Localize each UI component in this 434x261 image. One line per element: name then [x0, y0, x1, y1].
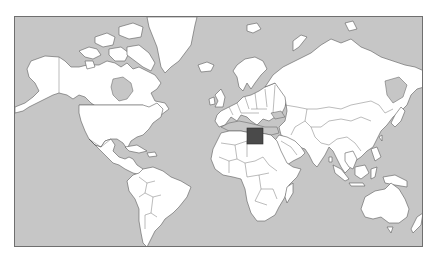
world-map: Egypt — [14, 16, 423, 247]
new-guinea — [383, 175, 407, 187]
severnaya-zemlya — [345, 21, 357, 31]
world-map-svg — [15, 17, 423, 247]
arctic-islands-4 — [119, 23, 143, 39]
sri-lanka — [329, 157, 332, 162]
taiwan — [379, 135, 382, 141]
ireland — [209, 97, 215, 105]
iceland — [198, 62, 214, 72]
philippines — [371, 147, 381, 161]
tasmania — [387, 227, 393, 233]
australia — [361, 183, 409, 223]
usa — [79, 103, 163, 149]
sulawesi — [371, 167, 377, 179]
new-zealand — [411, 213, 423, 233]
novaya-zemlya — [293, 35, 307, 51]
borneo — [355, 165, 369, 179]
arctic-islands-3 — [109, 47, 129, 61]
europe-mainland — [215, 83, 287, 127]
arctic-islands-2 — [95, 33, 115, 47]
south-america — [127, 167, 191, 247]
arctic-islands-1 — [79, 47, 101, 59]
hispaniola — [147, 152, 157, 157]
egypt-highlighted — [247, 128, 263, 144]
cuba — [125, 145, 147, 153]
great-britain — [215, 89, 225, 107]
java — [349, 183, 365, 186]
svalbard — [247, 23, 261, 33]
scandinavia — [233, 57, 267, 91]
